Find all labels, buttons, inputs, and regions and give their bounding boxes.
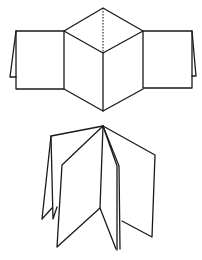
folded-book-figure bbox=[42, 126, 155, 250]
fold-line bbox=[16, 31, 64, 89]
folding-diagram bbox=[0, 0, 202, 260]
fold-line bbox=[10, 31, 16, 77]
fold-line bbox=[100, 208, 116, 249]
fold-line bbox=[143, 31, 192, 88]
fold-line bbox=[57, 126, 103, 247]
fold-line bbox=[103, 126, 155, 237]
fold-line bbox=[51, 136, 57, 219]
diagram-canvas bbox=[0, 0, 202, 260]
fold-line bbox=[103, 126, 117, 250]
unfolded-net-figure bbox=[10, 8, 196, 111]
